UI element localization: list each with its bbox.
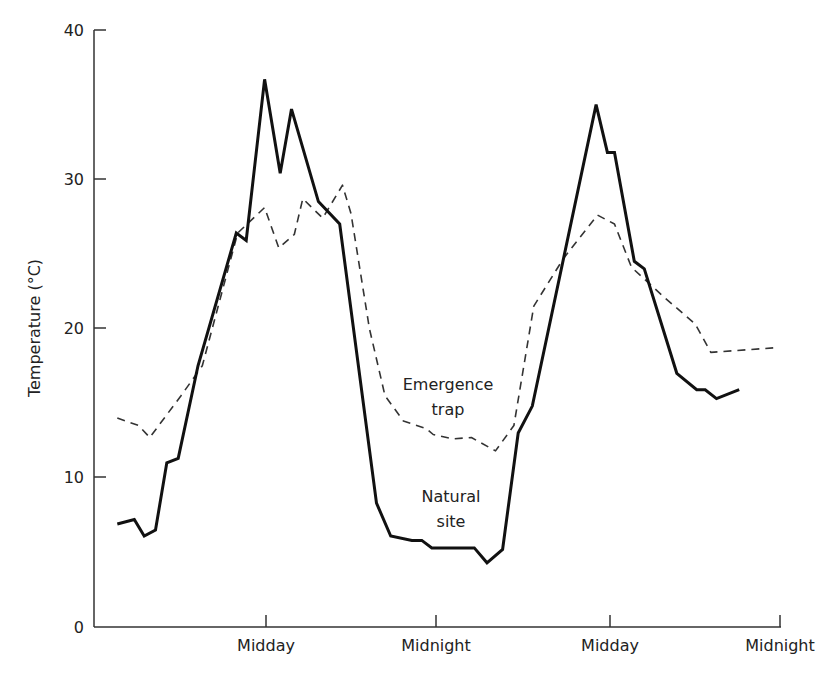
- trap-label-line1: Emergence: [403, 375, 494, 394]
- emergence-trap-annotation: Emergence trap: [403, 375, 494, 419]
- temperature-chart: 40 30 20 10 0 Temperature (°C) Midday Mi…: [0, 0, 832, 675]
- x-tick-midnight-2: Midnight: [745, 636, 815, 655]
- y-tick-0: 0: [74, 618, 84, 637]
- trap-label-line2: trap: [432, 400, 465, 419]
- x-tick-midday-2: Midday: [581, 636, 639, 655]
- x-tick-midnight-1: Midnight: [401, 636, 471, 655]
- y-tick-labels: 40 30 20 10 0: [64, 21, 84, 637]
- natural-site-annotation: Natural site: [421, 487, 480, 531]
- x-ticks: [266, 615, 780, 627]
- x-tick-midday-1: Midday: [237, 636, 295, 655]
- y-tick-20: 20: [64, 319, 84, 338]
- y-axis-label: Temperature (°C): [25, 259, 44, 398]
- x-tick-labels: Midday Midnight Midday Midnight: [237, 636, 815, 655]
- natural-label-line1: Natural: [421, 487, 480, 506]
- y-tick-30: 30: [64, 170, 84, 189]
- natural-label-line2: site: [437, 512, 466, 531]
- y-ticks: [94, 30, 106, 477]
- y-tick-40: 40: [64, 21, 84, 40]
- y-tick-10: 10: [64, 468, 84, 487]
